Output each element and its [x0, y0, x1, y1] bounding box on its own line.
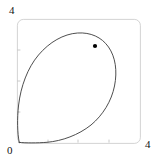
parametric-curve [18, 33, 116, 143]
x-axis-max-label: 4 [145, 139, 151, 150]
plot-frame [17, 19, 140, 143]
plot-figure: 4 0 4 [0, 0, 162, 167]
origin-label: 0 [7, 145, 13, 156]
y-axis-max-label: 4 [9, 5, 15, 16]
plot-canvas [0, 0, 162, 167]
curve-point-marker [93, 44, 97, 48]
